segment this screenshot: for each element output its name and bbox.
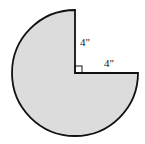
- right-angle-marker: [75, 66, 82, 73]
- vertical-radius-label: 4": [80, 36, 90, 48]
- horizontal-radius-label: 4": [104, 57, 114, 69]
- sector-diagram: 4" 4": [0, 0, 145, 144]
